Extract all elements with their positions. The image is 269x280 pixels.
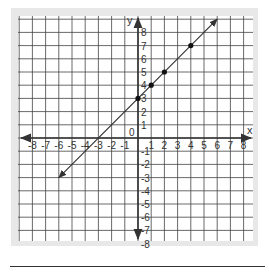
svg-text:6: 6 <box>214 140 220 151</box>
svg-text:-4: -4 <box>81 140 90 151</box>
svg-text:-2: -2 <box>141 159 150 170</box>
y-axis-label: y <box>127 14 133 26</box>
svg-text:-8: -8 <box>28 140 37 151</box>
bottom-divider <box>10 266 265 267</box>
svg-text:8: 8 <box>141 27 147 38</box>
svg-text:6: 6 <box>141 54 147 65</box>
svg-text:-7: -7 <box>141 225 150 236</box>
svg-text:7: 7 <box>141 41 147 52</box>
svg-text:5: 5 <box>141 67 147 78</box>
origin-label: 0 <box>129 127 135 138</box>
svg-text:-7: -7 <box>41 140 50 151</box>
svg-text:-5: -5 <box>141 199 150 210</box>
svg-text:-5: -5 <box>68 140 77 151</box>
svg-text:7: 7 <box>228 140 234 151</box>
svg-text:-3: -3 <box>141 173 150 184</box>
svg-text:-2: -2 <box>107 140 116 151</box>
svg-text:-1: -1 <box>141 146 150 157</box>
svg-text:4: 4 <box>188 140 194 151</box>
svg-text:-1: -1 <box>120 140 129 151</box>
svg-text:8: 8 <box>241 140 247 151</box>
svg-text:-8: -8 <box>141 239 150 250</box>
coordinate-plane: -8-7-6-5-4-3-2-11234567887654321-1-2-3-4… <box>0 0 269 280</box>
svg-text:5: 5 <box>201 140 207 151</box>
x-axis-label: x <box>247 124 253 136</box>
svg-text:3: 3 <box>175 140 181 151</box>
svg-text:-6: -6 <box>54 140 63 151</box>
svg-text:-4: -4 <box>141 186 150 197</box>
svg-text:1: 1 <box>141 120 147 131</box>
svg-text:2: 2 <box>141 107 147 118</box>
svg-text:2: 2 <box>162 140 168 151</box>
grid-background <box>18 16 253 241</box>
svg-text:-6: -6 <box>141 212 150 223</box>
